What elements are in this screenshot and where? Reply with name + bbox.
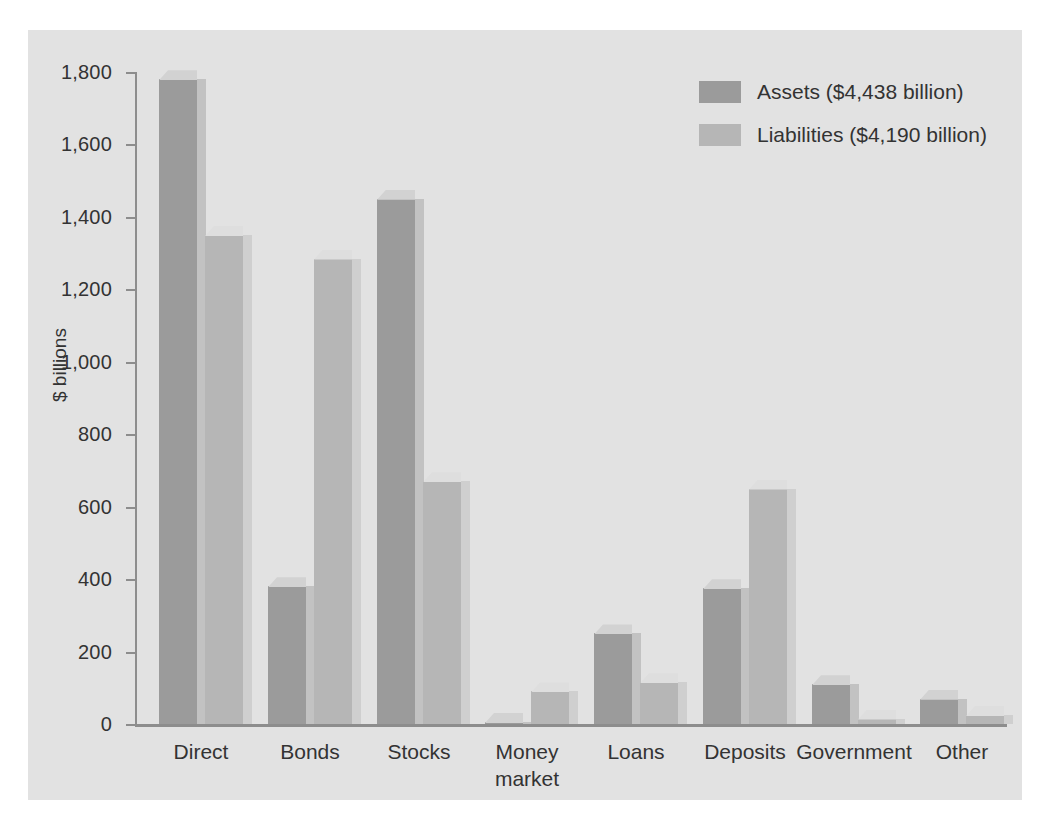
y-tick: 1,000 (126, 362, 135, 364)
bar-liabilities-government (858, 719, 896, 724)
bar-top-face (205, 226, 243, 236)
bar-assets-bonds (268, 586, 306, 724)
y-tick-label: 200 (78, 640, 112, 663)
legend-swatch (699, 124, 741, 146)
bar-face (314, 259, 352, 724)
bar-top-face (920, 690, 958, 700)
y-tick: 600 (126, 507, 135, 509)
bar-liabilities-stocks (423, 481, 461, 724)
bar-face (749, 489, 787, 724)
bar-top-face (749, 480, 787, 490)
bar-assets-government (812, 684, 850, 724)
bar-face (268, 586, 306, 724)
bar-face (966, 715, 1004, 724)
legend-item: Liabilities ($4,190 billion) (699, 113, 987, 156)
legend-item: Assets ($4,438 billion) (699, 70, 987, 113)
bar-liabilities-loans (640, 682, 678, 724)
bar-side-face (352, 259, 361, 724)
bar-top-face (268, 577, 306, 587)
bar-face (377, 199, 415, 724)
bar-top-face (812, 675, 850, 685)
bar-top-face (966, 706, 1004, 716)
bar-top-face (594, 624, 632, 634)
y-axis-line (135, 72, 137, 726)
y-tick: 0 (126, 724, 135, 726)
bar-side-face (243, 235, 252, 724)
bar-face (812, 684, 850, 724)
bar-side-face (787, 489, 796, 724)
legend-label: Liabilities ($4,190 billion) (757, 123, 987, 147)
bar-top-face (703, 579, 741, 589)
bar-assets-stocks (377, 199, 415, 724)
bar-assets-loans (594, 633, 632, 724)
bar-side-face (1004, 715, 1013, 724)
y-tick: 1,400 (126, 217, 135, 219)
y-tick-label: 1,800 (61, 61, 112, 84)
x-axis-line (135, 724, 1007, 727)
y-tick: 1,200 (126, 289, 135, 291)
bar-top-face (314, 250, 352, 260)
bar-liabilities-other (966, 715, 1004, 724)
bar-face (531, 691, 569, 724)
bar-top-face (858, 710, 896, 720)
y-tick-label: 1,200 (61, 278, 112, 301)
legend-swatch (699, 81, 741, 103)
y-tick: 1,600 (126, 144, 135, 146)
bar-top-face (377, 190, 415, 200)
bar-liabilities-deposits (749, 489, 787, 724)
y-tick-label: 1,400 (61, 205, 112, 228)
chart-panel: 02004006008001,0001,2001,4001,6001,800 $… (28, 30, 1022, 800)
bar-face (594, 633, 632, 724)
y-tick-label: 400 (78, 568, 112, 591)
bar-side-face (461, 481, 470, 724)
bar-assets-deposits (703, 588, 741, 724)
x-axis-label-line: market (437, 765, 617, 792)
bar-top-face (531, 682, 569, 692)
bar-top-face (485, 713, 523, 723)
y-tick: 200 (126, 652, 135, 654)
bar-assets-direct (159, 79, 197, 724)
x-axis-label: Other (872, 738, 1038, 765)
bar-side-face (896, 719, 905, 724)
plot-area: 02004006008001,0001,2001,4001,6001,800 $… (135, 72, 1005, 724)
bar-side-face (569, 691, 578, 724)
chart-figure: 02004006008001,0001,2001,4001,6001,800 $… (0, 0, 1038, 828)
bar-top-face (423, 472, 461, 482)
bar-assets-other (920, 699, 958, 724)
bar-top-face (159, 70, 197, 80)
bar-top-face (640, 673, 678, 683)
bar-face (205, 235, 243, 724)
bar-face (159, 79, 197, 724)
bar-face (920, 699, 958, 724)
bar-face (640, 682, 678, 724)
y-tick-label: 600 (78, 495, 112, 518)
y-tick: 1,800 (126, 72, 135, 74)
legend-label: Assets ($4,438 billion) (757, 80, 964, 104)
bar-assets-money-market (485, 722, 523, 724)
chart-legend: Assets ($4,438 billion)Liabilities ($4,1… (699, 70, 987, 156)
bar-liabilities-bonds (314, 259, 352, 724)
y-tick-label: 0 (101, 713, 112, 736)
y-tick-label: 800 (78, 423, 112, 446)
bar-liabilities-money-market (531, 691, 569, 724)
bar-liabilities-direct (205, 235, 243, 724)
y-axis-title: $ billions (49, 328, 71, 402)
bar-face (423, 481, 461, 724)
bar-face (703, 588, 741, 724)
x-axis-label-line: Other (872, 738, 1038, 765)
y-tick-label: 1,600 (61, 133, 112, 156)
bar-side-face (678, 682, 687, 724)
y-tick: 400 (126, 579, 135, 581)
y-tick: 800 (126, 434, 135, 436)
